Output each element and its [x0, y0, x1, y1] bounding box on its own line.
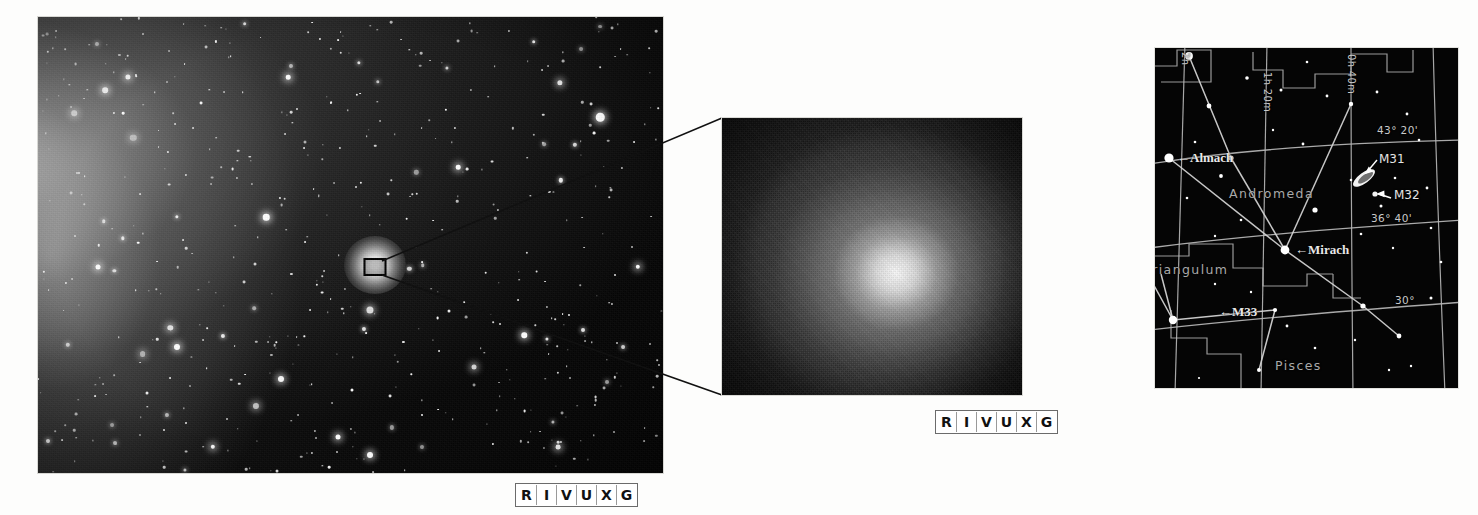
star — [494, 65, 496, 67]
star — [156, 338, 159, 341]
chart-constellation-label-triangulum: Triangulum — [1155, 262, 1228, 277]
star — [94, 395, 96, 397]
star — [78, 172, 80, 174]
star — [579, 47, 583, 51]
star — [55, 30, 57, 32]
star — [374, 313, 376, 315]
star — [386, 193, 389, 196]
star — [419, 64, 422, 67]
star — [438, 350, 440, 352]
star — [649, 343, 651, 345]
star — [457, 39, 460, 42]
star — [41, 34, 44, 37]
star — [527, 157, 529, 159]
star — [577, 405, 579, 407]
star — [355, 186, 357, 188]
rivuxg-cell-v: V — [977, 412, 997, 432]
star — [191, 253, 193, 255]
star — [365, 332, 367, 334]
star — [644, 427, 646, 429]
star — [321, 291, 324, 294]
star — [648, 47, 650, 49]
star — [133, 225, 135, 227]
star — [517, 299, 519, 301]
star — [309, 309, 311, 311]
bright-star — [596, 113, 605, 122]
star — [614, 56, 616, 58]
star — [110, 423, 114, 427]
star — [372, 471, 374, 473]
almach-text: Almach — [1190, 150, 1233, 165]
star — [140, 416, 142, 418]
star — [220, 27, 222, 29]
star — [177, 266, 180, 269]
star — [63, 310, 65, 312]
star — [74, 235, 76, 237]
chart-ra-label-0h40m: 0h 40m — [1346, 54, 1357, 94]
star — [142, 104, 144, 106]
star — [75, 413, 78, 416]
star — [65, 424, 67, 426]
star — [249, 467, 251, 469]
star — [527, 441, 529, 443]
star — [284, 133, 286, 135]
rivuxg-cell-i: I — [537, 485, 557, 505]
star — [202, 339, 204, 341]
star — [174, 123, 176, 125]
star — [71, 278, 73, 280]
star — [267, 341, 269, 343]
star — [182, 239, 184, 241]
star — [257, 236, 259, 238]
star — [456, 200, 459, 203]
star — [541, 69, 543, 71]
star — [613, 431, 615, 433]
star — [130, 135, 137, 142]
star — [562, 313, 564, 315]
star — [562, 60, 565, 63]
star — [473, 384, 476, 387]
star — [206, 367, 208, 369]
star — [394, 133, 396, 135]
star — [548, 190, 551, 193]
star — [650, 107, 652, 109]
star — [421, 414, 423, 416]
star — [145, 392, 148, 395]
star — [580, 141, 582, 143]
star — [556, 346, 558, 348]
star — [523, 410, 526, 413]
star — [269, 336, 271, 338]
arrow-left-icon: ← — [1219, 304, 1232, 319]
star — [595, 17, 597, 18]
star — [158, 130, 160, 132]
star — [492, 203, 495, 206]
star — [183, 23, 185, 25]
star — [156, 261, 158, 263]
chart-dec-label-30: 30° — [1395, 294, 1415, 306]
sky-background — [38, 17, 663, 473]
star — [223, 91, 225, 93]
star — [589, 102, 592, 105]
star — [560, 412, 563, 415]
figure-root: ←Almach ←Mirach M31 M32 ←M33 Andromeda T… — [0, 0, 1478, 515]
star — [203, 446, 205, 448]
rivuxg-cell-i: I — [957, 412, 977, 432]
star — [351, 388, 354, 391]
star — [243, 22, 247, 26]
star — [547, 344, 549, 346]
star — [421, 264, 425, 268]
star — [518, 279, 520, 281]
rivuxg-badge-main: RIVUXG — [515, 483, 638, 507]
rivuxg-cell-v: V — [557, 485, 577, 505]
star — [429, 119, 431, 121]
star — [581, 328, 585, 332]
star — [283, 197, 286, 200]
star — [304, 241, 306, 243]
star — [122, 112, 125, 115]
star — [544, 378, 546, 380]
star — [252, 307, 256, 311]
rivuxg-cell-r: R — [937, 412, 957, 432]
star — [470, 30, 473, 33]
star — [499, 395, 501, 397]
star — [429, 60, 431, 62]
star — [487, 96, 489, 98]
